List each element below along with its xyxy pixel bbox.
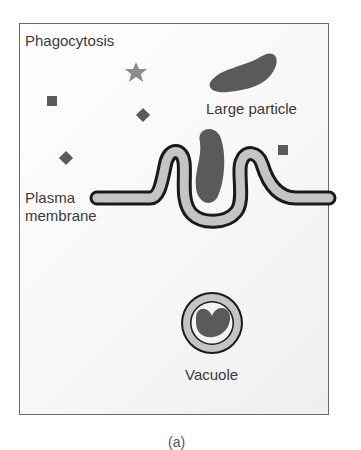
vacuole-shape	[181, 292, 243, 354]
vacuole-label: Vacuole	[185, 366, 238, 383]
diamond-particle-icon	[59, 151, 73, 165]
engulfed-particle-shape	[196, 129, 225, 203]
plasma-membrane-label-line1: Plasma	[25, 189, 75, 206]
large-particle-label: Large particle	[206, 100, 297, 117]
large-particle-shape	[210, 53, 277, 92]
square-particle-icon	[278, 145, 288, 155]
star-particle-icon	[125, 62, 147, 82]
plasma-membrane-label-line2: membrane	[25, 207, 97, 224]
diagram-title: Phagocytosis	[25, 32, 114, 49]
square-particle-icon	[47, 96, 57, 106]
diamond-particle-icon	[136, 108, 150, 122]
figure-caption: (a)	[168, 434, 185, 450]
